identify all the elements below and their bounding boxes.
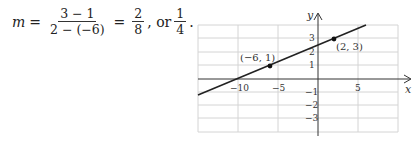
point-label: (2, 3) [336,41,363,52]
y-tick-label: −1 [305,87,318,97]
point-label: (−6, 1) [240,52,275,63]
point-marker [268,64,273,69]
x-tick-label: 5 [355,83,361,93]
y-tick-label: −3 [305,113,319,123]
y-tick-labels: 3 2 1 −1 −2 −3 [305,33,319,123]
y-axis-label: y [306,9,314,22]
y-tick-label: 3 [309,33,315,43]
x-tick-label: −5 [272,83,286,93]
coordinate-plane: x y −10 −5 5 3 2 1 −1 −2 −3 (−6, 1) (2, … [0,0,420,145]
y-tick-label: 1 [309,60,315,70]
x-tick-label: −10 [230,83,249,93]
y-tick-label: −2 [305,100,318,110]
x-axis-label: x [405,83,412,96]
